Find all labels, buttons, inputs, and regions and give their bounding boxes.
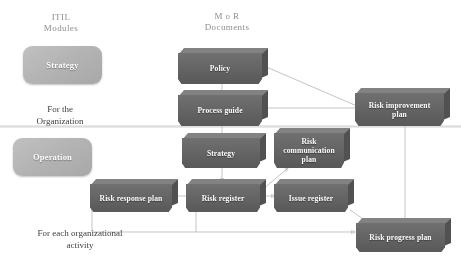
module-strategy[interactable]: Strategy [23,46,102,84]
doc-policy-front-face: Policy [178,53,262,84]
doc-risk-improvement-plan[interactable]: Risk improvement plan [355,88,450,126]
doc-risk-communication-plan-front-face: Risk communication plan [274,133,344,168]
doc-risk-response-plan[interactable]: Risk response plan [90,179,178,212]
doc-policy[interactable]: Policy [178,48,268,84]
doc-risk-communication-plan[interactable]: Risk communication plan [274,128,350,168]
connector-risk-improvement-to-policy [264,66,357,106]
column-header-mor-documents: M o R Documents [180,11,274,33]
doc-risk-progress-plan[interactable]: Risk progress plan [356,218,451,252]
doc-process-guide-front-face: Process guide [178,95,262,126]
doc-risk-progress-plan-front-face: Risk progress plan [356,223,445,252]
connector-risk-register-to-risk-progress [196,210,355,232]
doc-strategy-label: Strategy [204,149,238,158]
doc-policy-label: Policy [207,64,233,73]
doc-issue-register-front-face: Issue register [274,184,348,212]
module-strategy-label: Strategy [46,60,78,70]
doc-process-guide[interactable]: Process guide [178,90,268,126]
doc-risk-register-label: Risk register [199,194,248,203]
lane-caption-for-each-organizational-activity: For each organizational activity [10,228,150,251]
doc-issue-register[interactable]: Issue register [274,179,354,212]
doc-risk-improvement-plan-front-face: Risk improvement plan [355,93,444,126]
doc-risk-register[interactable]: Risk register [186,179,266,212]
doc-risk-progress-plan-label: Risk progress plan [366,233,434,242]
doc-risk-register-front-face: Risk register [186,184,260,212]
doc-risk-response-plan-front-face: Risk response plan [90,184,172,212]
column-header-itil-modules: ITIL Modules [14,12,108,34]
lane-caption-for-the-organization: For the Organization [12,104,108,127]
doc-risk-improvement-plan-label: Risk improvement plan [366,101,434,119]
module-operation[interactable]: Operation [13,138,92,176]
doc-risk-communication-plan-label: Risk communication plan [280,137,338,164]
module-operation-label: Operation [33,152,72,162]
doc-strategy[interactable]: Strategy [182,133,266,168]
doc-risk-response-plan-label: Risk response plan [97,194,166,203]
doc-issue-register-label: Issue register [286,194,337,203]
diagram-canvas: ITIL Modules M o R Documents For the Org… [0,0,461,273]
doc-process-guide-label: Process guide [194,106,245,115]
doc-strategy-front-face: Strategy [182,138,260,168]
